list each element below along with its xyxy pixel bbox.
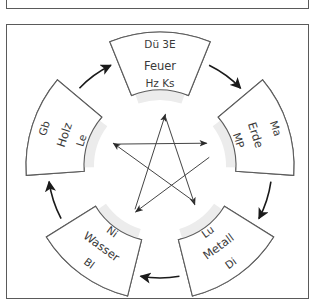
element-name: Feuer [144,59,176,73]
generation-arrow-wasser-holz [49,182,61,219]
generation-arrow-feuer-erde [209,65,240,88]
sector-outline [178,206,273,296]
five-elements-diagram: Dü 3EFeuerHz KsMaErdeMPDiMetallLuBlWasse… [0,0,319,304]
element-sector-holz: GbHolzLe [26,80,107,175]
control-cycle-star [113,114,209,212]
generation-arrow-metall-wasser [141,276,180,278]
generation-arrow-erde-metall [259,182,271,219]
inner-organ-label: Hz Ks [145,77,174,89]
element-sector-erde: MaErdeMP [213,80,294,175]
sector-outline [46,206,141,296]
generation-arrow-holz-feuer [79,65,110,88]
outer-organ-label: Dü 3E [144,38,175,50]
control-arrow-metall-holz [113,143,194,202]
element-sector-feuer: Dü 3EFeuerHz Ks [110,32,210,104]
control-arrow-holz-erde [115,143,207,144]
control-arrow-erde-wasser [136,157,210,212]
element-sectors: Dü 3EFeuerHz KsMaErdeMPDiMetallLuBlWasse… [26,32,294,296]
